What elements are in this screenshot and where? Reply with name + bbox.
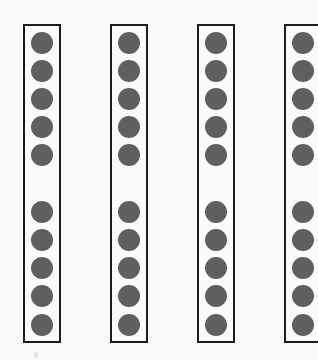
counter-dot	[292, 285, 314, 307]
counter-dot	[292, 32, 314, 54]
counter-dot	[118, 257, 140, 279]
counter-dot	[292, 116, 314, 138]
counter-dot	[292, 257, 314, 279]
counter-dot	[292, 88, 314, 110]
counter-dot	[118, 285, 140, 307]
counter-dot	[205, 201, 227, 223]
counter-dot	[205, 285, 227, 307]
ten-frame-1	[23, 24, 61, 343]
ten-frame-2	[110, 24, 148, 343]
counter-dot	[118, 32, 140, 54]
counter-dot	[292, 201, 314, 223]
counter-dot	[31, 32, 53, 54]
counter-dot	[118, 116, 140, 138]
counter-dot	[118, 144, 140, 166]
counter-dot	[205, 229, 227, 251]
counter-dot	[205, 116, 227, 138]
counter-dot	[31, 60, 53, 82]
counter-dot	[31, 229, 53, 251]
counter-dot	[205, 60, 227, 82]
counter-dot	[205, 257, 227, 279]
counter-dot	[292, 314, 314, 336]
counter-dot	[118, 229, 140, 251]
ten-frame-3	[197, 24, 235, 343]
counter-dot	[31, 201, 53, 223]
counter-dot	[292, 229, 314, 251]
counter-dot	[31, 116, 53, 138]
counter-dot	[118, 88, 140, 110]
counter-dot	[118, 201, 140, 223]
counter-dot	[205, 144, 227, 166]
counter-dot	[31, 88, 53, 110]
counter-dot	[205, 32, 227, 54]
counter-dot	[31, 257, 53, 279]
counter-dot	[292, 60, 314, 82]
counter-dot	[118, 60, 140, 82]
counter-dot	[31, 144, 53, 166]
ten-frame-4	[284, 24, 318, 343]
counter-dot	[31, 285, 53, 307]
counter-dot	[31, 314, 53, 336]
scan-smudge-mark	[34, 352, 38, 358]
counter-dot	[118, 314, 140, 336]
counter-dot	[292, 144, 314, 166]
counter-dot	[205, 314, 227, 336]
counter-dot	[205, 88, 227, 110]
